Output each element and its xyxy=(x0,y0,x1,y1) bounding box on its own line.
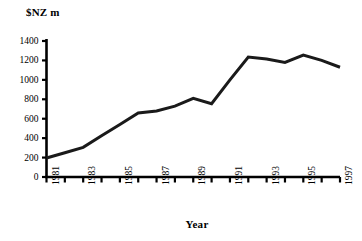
y-axis-tick-label: 800 xyxy=(0,94,39,104)
y-axis-tick-label: 1400 xyxy=(0,36,39,46)
x-axis-tick-label: 1983 xyxy=(87,166,97,185)
y-axis-tick-label: 600 xyxy=(0,114,39,124)
x-axis-tick-label: 1989 xyxy=(197,166,207,185)
y-axis-tick-label: 0 xyxy=(0,172,39,182)
plot-area xyxy=(0,0,362,241)
data-series-line xyxy=(47,55,341,158)
x-axis-tick-label: 1991 xyxy=(234,166,244,185)
x-axis-tick-label: 1981 xyxy=(51,166,61,185)
y-axis-tick-label: 1000 xyxy=(0,75,39,85)
y-axis-tick-label: 400 xyxy=(0,133,39,143)
x-axis-tick-label: 1997 xyxy=(344,166,354,185)
x-axis-tick-label: 1985 xyxy=(124,166,134,185)
y-axis-tick-label: 1200 xyxy=(0,55,39,65)
x-axis-tick-label: 1993 xyxy=(271,166,281,185)
x-axis-tick-label: 1987 xyxy=(161,166,171,185)
y-axis-tick-label: 200 xyxy=(0,153,39,163)
line-chart: $NZ m 0200400600800100012001400 19811983… xyxy=(0,0,362,241)
x-axis-title: Year xyxy=(0,218,362,230)
x-axis-tick-label: 1995 xyxy=(307,166,317,185)
